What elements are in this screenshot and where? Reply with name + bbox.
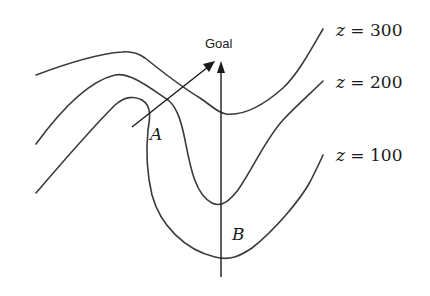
contour-z-200 [36, 75, 323, 205]
vertical-arrowhead-icon [217, 61, 225, 73]
contour-z-100 [36, 97, 323, 258]
goal-label: Goal [205, 36, 233, 51]
contour-label-z-200: z = 200 [335, 72, 402, 92]
point-label-a: A [148, 124, 162, 144]
contour-z-300 [36, 29, 323, 114]
gradient-direction-arrow [132, 67, 208, 127]
contour-label-z-300: z = 300 [335, 20, 402, 40]
contour-label-z-100: z = 100 [335, 145, 402, 165]
contour-diagram: Goal A B z = 300 z = 200 z = 100 [0, 0, 430, 296]
point-label-b: B [231, 224, 245, 244]
